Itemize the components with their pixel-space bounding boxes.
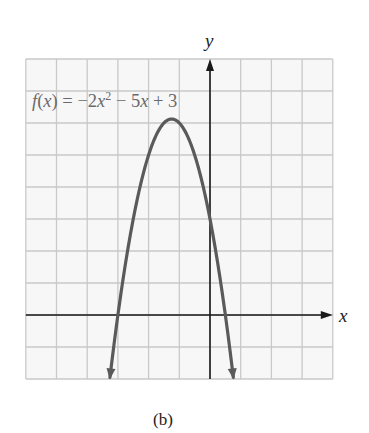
function-graph: y x f(x) = −2x2 − 5x + 3 (b) xyxy=(0,0,369,433)
eq-rest2: + 3 xyxy=(148,91,177,111)
eq-close: ) = −2 xyxy=(52,91,98,112)
x-axis-label: x xyxy=(338,305,348,326)
y-axis-label: y xyxy=(203,30,214,51)
eq-rest1: − 5 xyxy=(111,91,140,111)
figure-caption: (b) xyxy=(153,410,173,429)
function-equation-label: f(x) = −2x2 − 5x + 3 xyxy=(32,89,177,112)
